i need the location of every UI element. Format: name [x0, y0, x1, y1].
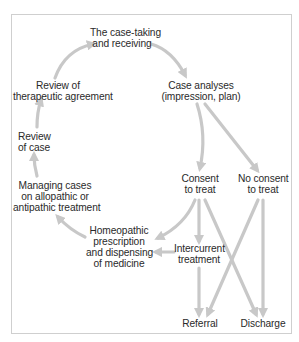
arrow-casetaking-to-analyses [151, 44, 185, 75]
arrow-managing-to-reviewcase [34, 155, 37, 176]
node-consent: Consent to treat [180, 173, 220, 195]
arrow-agreement-to-casetaking [55, 44, 93, 78]
node-case-taking: The case-taking and receiving [90, 27, 154, 49]
node-managing-cases: Managing cases on allopathic or antipath… [13, 180, 97, 213]
node-discharge: Discharge [240, 318, 286, 329]
node-referral: Referral [180, 318, 220, 329]
flow-arrows [0, 0, 299, 342]
node-review-agreement: Review of therapeutic agreement [13, 80, 103, 102]
node-no-consent: No consent to treat [238, 173, 288, 195]
arrow-analyses-to-noconsent [205, 104, 257, 170]
node-intercurrent: Intercurrent treatment [174, 243, 224, 265]
node-case-analyses: Case analyses (impression, plan) [160, 80, 242, 102]
arrow-homeopathic-to-managing [58, 217, 85, 237]
node-homeopathic: Homeopathic prescription and dispensing … [86, 225, 152, 269]
node-review-case: Review of case [18, 131, 52, 153]
arrow-reviewcase-to-agreement [37, 100, 41, 127]
arrow-consent-to-homeopathic [158, 200, 195, 238]
arrow-analyses-to-consent [197, 104, 203, 168]
